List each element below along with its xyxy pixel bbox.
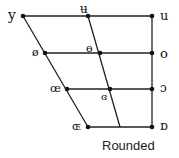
vowel-chart bbox=[0, 0, 179, 158]
vowel-open-back: ɒ bbox=[160, 120, 168, 132]
vowel-close-front: y bbox=[8, 8, 16, 22]
vowel-open-front: ɶ bbox=[72, 121, 81, 132]
vowel-close-back: u bbox=[160, 9, 168, 22]
vowel-closemid-back: o bbox=[160, 47, 168, 60]
vowel-close-central: ʉ bbox=[80, 3, 88, 15]
vowel-closemid-front: ø bbox=[32, 47, 39, 58]
chart-caption: Rounded bbox=[102, 138, 155, 153]
vowel-closemid-central: ɵ bbox=[86, 43, 93, 54]
vowel-openmid-front: œ bbox=[50, 83, 61, 94]
vowel-openmid-back: ɔ bbox=[160, 82, 167, 94]
vowel-openmid-central: ɞ bbox=[101, 92, 107, 102]
